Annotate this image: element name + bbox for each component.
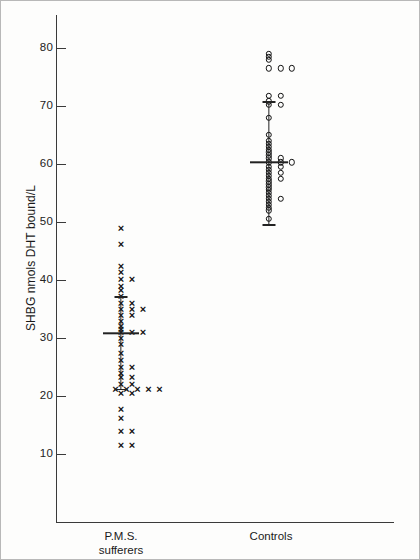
y-axis-title: SHBG nmols DHT bound/L xyxy=(24,158,38,358)
scatter-plot: 1020304050607080 SHBG nmols DHT bound/L … xyxy=(1,1,420,560)
y-tick-label: 70 xyxy=(23,99,53,111)
y-tick-mark xyxy=(57,164,66,165)
y-tick: 80 xyxy=(1,41,53,55)
y-tick-mark xyxy=(57,222,66,223)
data-point: × xyxy=(129,388,135,399)
data-point: × xyxy=(140,327,146,338)
error-bar-cap-upper xyxy=(263,101,276,102)
data-point: × xyxy=(134,384,140,395)
y-tick-label: 20 xyxy=(23,389,53,401)
y-tick-label: 80 xyxy=(23,41,53,53)
x-axis-line xyxy=(56,522,394,523)
data-point xyxy=(277,102,283,108)
y-tick: 10 xyxy=(1,447,53,461)
data-point: × xyxy=(129,425,135,436)
data-point xyxy=(277,196,283,202)
category-label-controls: Controls xyxy=(211,529,331,543)
y-tick-mark xyxy=(57,454,66,455)
data-point xyxy=(277,65,283,71)
mean-marker xyxy=(103,333,139,334)
data-point: × xyxy=(118,413,124,424)
y-tick-mark xyxy=(57,396,66,397)
error-bar-cap-lower xyxy=(263,224,276,225)
data-point xyxy=(277,175,283,181)
error-bar-line xyxy=(120,296,121,389)
data-point: × xyxy=(118,239,124,250)
category-label-pms-line1: P.M.S. xyxy=(61,529,181,543)
data-point: × xyxy=(118,222,124,233)
error-bar-cap-lower xyxy=(115,389,128,390)
data-point xyxy=(266,65,272,71)
data-point: × xyxy=(145,384,151,395)
category-label-pms-line2: sufferers xyxy=(61,543,181,557)
y-tick-mark xyxy=(57,48,66,49)
data-point: × xyxy=(118,440,124,451)
category-label-pms: P.M.S. sufferers xyxy=(61,529,181,557)
y-axis-line xyxy=(56,15,57,523)
data-point: × xyxy=(129,440,135,451)
data-point: × xyxy=(156,384,162,395)
error-bar-cap-upper xyxy=(115,296,128,297)
data-point: × xyxy=(140,304,146,315)
data-point: × xyxy=(129,273,135,284)
y-tick: 70 xyxy=(1,99,53,113)
y-tick-mark xyxy=(57,338,66,339)
data-point xyxy=(277,92,283,98)
y-tick-label: 10 xyxy=(23,447,53,459)
data-point xyxy=(289,159,295,165)
mean-marker xyxy=(250,162,288,163)
y-tick-mark xyxy=(57,106,66,107)
data-point: × xyxy=(129,309,135,320)
figure-frame: 1020304050607080 SHBG nmols DHT bound/L … xyxy=(0,0,420,560)
data-point xyxy=(289,65,295,71)
y-tick-mark xyxy=(57,280,66,281)
y-tick: 20 xyxy=(1,389,53,403)
data-point xyxy=(266,56,272,62)
data-point: × xyxy=(118,425,124,436)
